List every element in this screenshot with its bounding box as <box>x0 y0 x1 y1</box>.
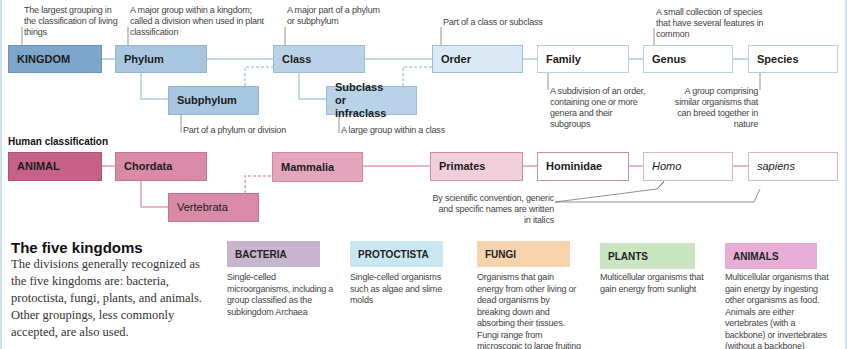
note-kingdom: The largest grouping in the classificati… <box>24 5 122 38</box>
note-family: A subdivision of an order, containing on… <box>550 86 650 130</box>
kingdom-bacteria-description: Single-celled microorganisms, including … <box>227 272 337 318</box>
box-label: ANIMAL <box>17 160 60 173</box>
box-chordata: Chordata <box>115 152 207 181</box>
kingdom-plants-description: Multicellular organisms that gain energy… <box>600 272 710 295</box>
kingdom-protoctista: PROTOCTISTA <box>350 241 443 267</box>
five-kingdoms-title: The five kingdoms <box>11 239 143 256</box>
box-subclass: Subclass or infraclass <box>326 86 417 115</box>
kingdom-bacteria: BACTERIA <box>227 241 320 267</box>
kingdom-animals: ANIMALS <box>725 243 817 269</box>
note-subphylum: Part of a phylum or division <box>183 125 323 136</box>
box-label: Family <box>546 53 581 66</box>
box-homo: Homo <box>643 152 733 181</box>
box-subphylum: Subphylum <box>168 86 259 115</box>
kingdom-label: PLANTS <box>608 251 648 262</box>
kingdom-label: ANIMALS <box>733 251 779 262</box>
kingdom-label: BACTERIA <box>235 249 287 260</box>
kingdom-animals-description: Multicellular organisms that gain energy… <box>725 272 837 349</box>
five-kingdoms-paragraph: The divisions generally recognized as th… <box>11 256 211 341</box>
box-label: Mammalia <box>281 161 334 174</box>
box-label: Species <box>757 53 799 66</box>
box-family: Family <box>537 45 629 73</box>
box-label: sapiens <box>757 160 795 173</box>
note-species: A group comprising similar organisms tha… <box>663 86 758 130</box>
kingdom-fungi-description: Organisms that gain energy from other li… <box>477 272 582 349</box>
box-vertebrata: Vertebrata <box>168 193 259 222</box>
box-label: Order <box>441 53 471 66</box>
box-label: Hominidae <box>546 160 602 173</box>
box-label: Class <box>282 53 311 66</box>
note-class: A major part of a phylum or subphylum <box>287 5 387 27</box>
box-kingdom: KINGDOM <box>8 45 102 73</box>
box-class: Class <box>273 45 365 73</box>
box-phylum: Phylum <box>115 45 207 73</box>
box-label: Primates <box>439 160 485 173</box>
kingdom-label: FUNGI <box>485 249 516 260</box>
box-label: Chordata <box>124 160 172 173</box>
note-order: Part of a class or subclass <box>443 17 583 28</box>
box-label: Subclass or infraclass <box>335 81 386 120</box>
note-subclass: A large group within a class <box>341 125 481 136</box>
box-species: Species <box>748 45 838 73</box>
box-label: Vertebrata <box>177 201 228 214</box>
box-hominidae: Hominidae <box>537 152 629 181</box>
kingdom-fungi: FUNGI <box>477 241 570 267</box>
note-genus: A small collection of species that have … <box>656 7 776 40</box>
note-phylum: A major group within a kingdom; called a… <box>130 5 275 38</box>
human-classification-heading: Human classification <box>8 136 108 147</box>
box-primates: Primates <box>430 152 523 181</box>
box-label: KINGDOM <box>17 53 70 66</box>
kingdom-label: PROTOCTISTA <box>358 249 429 260</box>
box-sapiens: sapiens <box>748 152 838 181</box>
box-label: Phylum <box>124 53 164 66</box>
box-mammalia: Mammalia <box>272 152 363 182</box>
kingdom-protoctista-description: Single-celled organisms such as algae an… <box>350 272 460 307</box>
box-genus: Genus <box>643 45 733 73</box>
box-label: Homo <box>652 160 681 173</box>
box-order: Order <box>432 45 523 73</box>
box-label: Subphylum <box>177 94 237 107</box>
box-label: Genus <box>652 53 686 66</box>
note-italics: By scientific convention, generic and sp… <box>430 193 554 226</box>
box-animal: ANIMAL <box>8 152 102 181</box>
kingdom-plants: PLANTS <box>600 243 695 269</box>
